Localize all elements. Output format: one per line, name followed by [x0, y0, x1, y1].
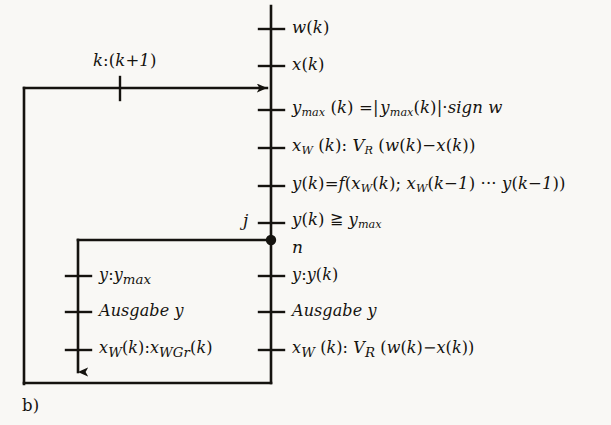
yes-branch-label-y-ymax: y:ymax — [99, 267, 151, 287]
step-label-ymax: ymax (k) =| ymax(k)|·sign w — [292, 100, 503, 118]
step-label-decision: y(k) ≧ ymax — [292, 212, 382, 230]
decision-yes-label: j — [243, 212, 248, 229]
step-label-y: y(k)=f(xW(k); xW(k−1) ··· y(k−1)) — [292, 176, 566, 194]
step-label-xw: xW (k): VR (w(k)−x(k)) — [292, 138, 475, 156]
no-branch-label-xw-vr: xW (k): VR (w(k)−x(k)) — [292, 340, 474, 360]
loop-counter-label: k:(k+1) — [93, 53, 157, 70]
figure-b-diagram: w(k) x(k) ymax (k) =| ymax(k)|·sign w xW… — [0, 0, 611, 425]
yes-branch-label-xw-gr: xW(k):xWGr(k) — [99, 340, 213, 360]
no-branch-label-y-yk: y:y(k) — [292, 267, 338, 283]
decision-junction-dot — [266, 235, 276, 245]
step-label-x: x(k) — [292, 57, 325, 74]
figure-caption: b) — [22, 398, 39, 415]
no-branch-label-ausgabe: Ausgabe y — [292, 303, 377, 319]
step-label-w: w(k) — [292, 20, 329, 37]
yes-branch-label-ausgabe: Ausgabe y — [99, 303, 184, 319]
decision-no-label: n — [292, 239, 303, 256]
